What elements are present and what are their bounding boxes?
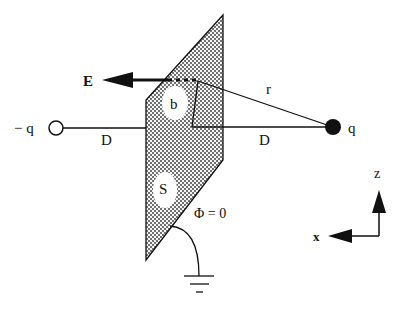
image-charge-circle: [49, 121, 63, 135]
ground-symbol: [170, 226, 214, 292]
point-charge-circle: [325, 119, 341, 135]
offset-label: b: [170, 96, 178, 112]
image-charge-diagram: E − q q D D r b S Φ = 0 z x: [0, 0, 401, 313]
pos-charge-label: q: [348, 120, 356, 136]
axis-x-label: x: [313, 229, 320, 244]
distance-right-label: D: [259, 132, 270, 148]
distance-left-label: D: [101, 132, 112, 148]
surface-label: S: [159, 181, 167, 197]
coordinate-axes: [328, 190, 386, 243]
field-label: E: [83, 73, 93, 89]
radius-label: r: [266, 81, 271, 97]
neg-charge-label: − q: [14, 120, 34, 136]
potential-label: Φ = 0: [194, 206, 226, 221]
conducting-plane: [146, 15, 223, 260]
axis-z-label: z: [374, 166, 380, 181]
